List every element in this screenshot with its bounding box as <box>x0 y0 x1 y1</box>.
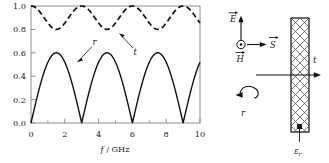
x-tick-label: 8 <box>164 129 169 139</box>
x-tick-label: 0 <box>28 129 33 139</box>
E-vector-label: E <box>229 11 239 24</box>
y-tick-label: 0.2 <box>13 95 26 105</box>
y-axis-tick-labels: 0.00.20.40.60.81.0 <box>13 1 26 128</box>
y-tick-label: 1.0 <box>13 1 26 11</box>
H-vector-symbol <box>237 40 245 48</box>
x-axis-tick-labels: 0246810 <box>28 129 205 139</box>
permittivity-leader <box>297 124 302 142</box>
permittivity-subscript: r <box>299 150 303 157</box>
y-tick-label: 0.0 <box>13 118 26 128</box>
x-tick-label: 4 <box>96 129 101 139</box>
y-tick-label: 0.6 <box>13 48 26 58</box>
reflected-ray-label: r <box>241 108 246 118</box>
E-label: E <box>229 14 237 24</box>
H-vector-label: H <box>236 51 246 64</box>
E-vector-arrow <box>238 16 243 41</box>
S-vector-arrow <box>247 42 267 47</box>
t-annotation-label: t <box>134 47 138 57</box>
svg-text:f / GHz: f / GHz <box>100 144 131 154</box>
reflected-ray <box>236 86 259 98</box>
y-tick-label: 0.4 <box>13 71 26 81</box>
H-label: H <box>236 54 245 64</box>
transmitted-ray-label: t <box>313 55 317 65</box>
x-tick-label: 10 <box>195 129 205 139</box>
S-vector-label: S <box>269 36 279 50</box>
figure-root: 0.00.20.40.60.81.0 0246810 t r f / G <box>0 0 329 163</box>
permittivity-label: εr <box>294 146 303 157</box>
y-tick-label: 0.8 <box>13 24 26 34</box>
plot-panel: 0.00.20.40.60.81.0 0246810 t r f / G <box>0 0 210 163</box>
S-label: S <box>270 40 276 50</box>
x-tick-label: 2 <box>62 129 67 139</box>
schematic-panel: E H S <box>210 0 329 163</box>
transmitted-ray <box>256 72 321 78</box>
coefficients-plot: 0.00.20.40.60.81.0 0246810 t r f / G <box>0 0 210 163</box>
slab-schematic: E H S <box>210 0 329 163</box>
x-tick-label: 6 <box>130 129 135 139</box>
x-axis-label: f / GHz <box>100 144 131 154</box>
